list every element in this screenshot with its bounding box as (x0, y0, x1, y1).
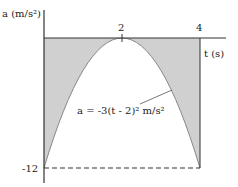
y-axis-label: a (m/s²) (2, 8, 41, 19)
tick-label-2: 2 (118, 22, 124, 33)
x-axis-label: t (s) (204, 48, 224, 59)
shaded-region (44, 38, 200, 168)
tick-label-4: 4 (196, 22, 202, 33)
tick-label-minus12: -12 (22, 163, 38, 174)
acceleration-diagram: a (m/s²) t (s) 2 4 -12 a = -3(t - 2)² m/… (0, 0, 238, 187)
equation-label: a = -3(t - 2)² m/s² (77, 105, 165, 116)
leader-line (140, 90, 172, 104)
